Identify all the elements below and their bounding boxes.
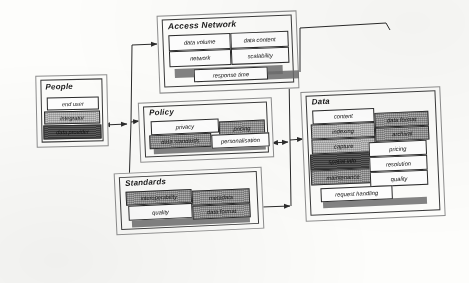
people-item-end-user[interactable]: end user (47, 96, 99, 110)
group-people[interactable]: People end user integrator data provider (35, 74, 108, 147)
data-item-maintenance[interactable]: maintenance (311, 168, 376, 186)
group-data-title: Data (312, 97, 331, 107)
access-network-item-scalability[interactable]: scalability (231, 47, 290, 65)
standards-item-quality[interactable]: quality (128, 203, 193, 221)
group-policy-title: Policy (149, 107, 174, 117)
group-people-title: People (45, 82, 73, 92)
group-policy[interactable]: Policy privacy pricing data standards pe… (138, 97, 274, 163)
group-standards[interactable]: Standards interoperability metadata qual… (114, 167, 265, 236)
data-item-request-handling[interactable]: request handling (320, 185, 393, 202)
diagram-canvas: People end user integrator data provider… (0, 0, 469, 283)
group-data[interactable]: Data content indexing capture spatial in… (300, 86, 445, 222)
policy-item-data-standards[interactable]: data standards (149, 133, 212, 150)
data-item-quality[interactable]: quality (370, 170, 429, 187)
people-item-integrator[interactable]: integrator (44, 110, 100, 124)
access-network-item-network[interactable]: network (169, 49, 232, 67)
policy-item-personalisation[interactable]: personalisation (211, 132, 270, 148)
standards-item-data-format[interactable]: data format (192, 203, 251, 220)
people-item-data-provider[interactable]: data provider (43, 124, 101, 139)
group-access-network[interactable]: Access Network data volume data content … (157, 10, 300, 93)
group-standards-title: Standards (125, 177, 166, 188)
